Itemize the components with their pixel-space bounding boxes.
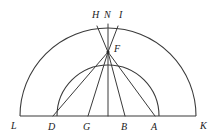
ray-F-to-D — [53, 52, 108, 116]
ray-F-to-G — [88, 52, 108, 116]
vertex-label-H: H — [92, 10, 99, 20]
vertex-label-F: F — [114, 44, 120, 54]
diagram-canvas — [0, 0, 215, 140]
vertex-label-D: D — [48, 122, 55, 132]
vertex-label-I: I — [119, 10, 122, 20]
ray-F-to-H — [97, 26, 108, 52]
vertex-label-B: B — [121, 122, 127, 132]
vertex-label-K: K — [200, 121, 207, 131]
vertex-label-G: G — [83, 122, 90, 132]
vertex-label-N: N — [104, 10, 111, 20]
ray-F-to-B — [108, 52, 125, 116]
vertex-label-A: A — [151, 122, 157, 132]
apex-point-F-marker — [106, 50, 109, 53]
vertex-label-L: L — [11, 121, 17, 131]
geometry-diagram: H N I F L D G B A K — [0, 0, 215, 140]
